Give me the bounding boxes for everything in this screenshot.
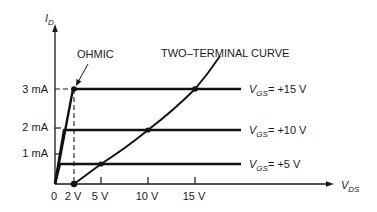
- svg-text:0: 0: [51, 190, 57, 202]
- x-tick-labels: 0 2 V 5 V 10 V 15 V: [51, 190, 206, 202]
- characteristic-curves: [55, 89, 241, 184]
- series-labels: VGS= +15 V VGS= +10 V VGS= +5 V: [249, 83, 307, 173]
- ohmic-annotation: OHMIC: [76, 48, 114, 86]
- x-axis-label: VDS: [341, 179, 360, 194]
- curve-vgs-15: [55, 89, 241, 184]
- jfet-characteristic-diagram: OHMIC TWO–TERMINAL CURVE ID VDS 3 mA 2 m…: [0, 0, 377, 212]
- svg-text:3 mA: 3 mA: [22, 83, 48, 95]
- ohmic-label: OHMIC: [77, 48, 114, 60]
- label-vgs-10: VGS= +10 V: [249, 124, 307, 139]
- label-vgs-5: VGS= +5 V: [249, 158, 301, 173]
- x-axis-arrow-icon: [326, 181, 334, 187]
- two-terminal-curve-label: TWO–TERMINAL CURVE: [161, 47, 289, 59]
- y-tick-labels: 3 mA 2 mA 1 mA: [22, 83, 48, 159]
- label-vgs-15: VGS= +15 V: [249, 83, 307, 98]
- svg-text:15 V: 15 V: [183, 190, 206, 202]
- y-axis-label: ID: [45, 12, 54, 27]
- svg-text:1 mA: 1 mA: [22, 147, 48, 159]
- svg-text:10 V: 10 V: [136, 190, 159, 202]
- curve-vgs-10: [55, 130, 241, 184]
- svg-text:2 V: 2 V: [65, 190, 82, 202]
- svg-text:5 V: 5 V: [92, 190, 109, 202]
- svg-text:2 mA: 2 mA: [22, 121, 48, 133]
